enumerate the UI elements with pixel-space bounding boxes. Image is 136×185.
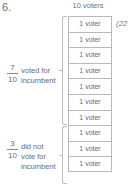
- label-voted-for-incumbent: 7 10 voted for incumbent: [7, 63, 56, 86]
- label-text-did-not-vote-for-incumbent: did not vote for incumbent: [21, 139, 56, 172]
- voter-box: 1 voter: [68, 47, 112, 63]
- voter-box: 1 voter: [68, 32, 112, 48]
- problem-number: 6.: [2, 1, 12, 13]
- voter-box: 1 voter: [68, 94, 112, 110]
- voter-box: 1 voter: [68, 110, 112, 126]
- voter-box: 1 voter: [68, 78, 112, 94]
- fraction-denominator: 10: [7, 151, 18, 160]
- fraction-seven-tenths: 7 10: [7, 63, 18, 84]
- brace-nub-did-not-vote-for-incumbent: [59, 155, 63, 156]
- fraction-numerator: 3: [8, 139, 16, 148]
- voter-box-label: 1 voter: [79, 114, 100, 122]
- voter-box-label: 1 voter: [79, 98, 100, 106]
- diagram-column-header: 10 voters: [60, 1, 116, 11]
- fraction-bar: [7, 149, 18, 150]
- voter-box: 1 voter: [68, 125, 112, 141]
- voter-box-label: 1 voter: [79, 51, 100, 59]
- brace-nub-voted-for-incumbent: [59, 70, 63, 71]
- voter-box: 1 voter: [68, 63, 112, 79]
- voter-box-label: 1 voter: [79, 145, 100, 153]
- side-annotation: (22: [116, 19, 128, 29]
- voter-box-label: 1 voter: [79, 83, 100, 91]
- voter-box-label: 1 voter: [79, 160, 100, 168]
- fraction-three-tenths: 3 10: [7, 139, 18, 160]
- voter-box-label: 1 voter: [79, 20, 100, 28]
- label-text-voted-for-incumbent: voted for incumbent: [21, 63, 56, 86]
- voter-box-label: 1 voter: [79, 67, 100, 75]
- fraction-denominator: 10: [7, 75, 18, 84]
- label-did-not-vote-for-incumbent: 3 10 did not vote for incumbent: [7, 139, 56, 172]
- voter-box: 1 voter: [68, 156, 112, 172]
- fraction-numerator: 7: [8, 63, 16, 72]
- fraction-bar: [7, 73, 18, 74]
- voter-box-label: 1 voter: [79, 129, 100, 137]
- voter-box-label: 1 voter: [79, 36, 100, 44]
- voter-box: 1 voter: [68, 141, 112, 157]
- voter-box-stack: 1 voter1 voter1 voter1 voter1 voter1 vot…: [68, 16, 112, 172]
- voter-box: 1 voter: [68, 16, 112, 32]
